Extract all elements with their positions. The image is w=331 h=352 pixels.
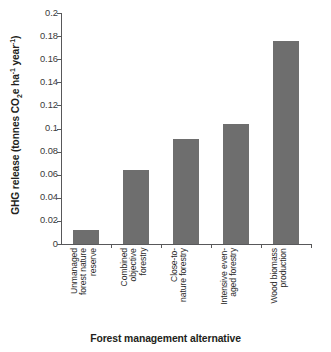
y-axis-tick-label: 0.2 [24, 9, 58, 18]
y-axis-line [61, 13, 62, 244]
y-axis-tick-label: 0 [24, 240, 58, 249]
y-axis-tick-mark [57, 152, 61, 153]
y-axis-tick-mark [57, 244, 61, 245]
y-axis-tick-label: 0.14 [24, 78, 58, 87]
y-axis-tick-mark [57, 221, 61, 222]
y-axis-tick-mark [57, 129, 61, 130]
y-axis-tick-mark [57, 13, 61, 14]
y-axis-tick-mark [57, 105, 61, 106]
y-axis-tick-mark [57, 36, 61, 37]
x-axis-category-labels: Unmanaged forest nature reserveCombined … [61, 248, 311, 330]
y-axis-tick-label: 0.08 [24, 147, 58, 156]
y-axis-tick-labels: 00.020.040.060.080.10.120.140.160.180.2 [14, 0, 58, 352]
y-axis-tick-mark [57, 59, 61, 60]
bar [273, 41, 299, 244]
y-axis-tick-mark [57, 82, 61, 83]
y-axis-tick-label: 0.1 [24, 124, 58, 133]
y-axis-tick-label: 0.06 [24, 170, 58, 179]
y-axis-tick-mark [57, 175, 61, 176]
bar [223, 124, 249, 244]
plot-area [61, 13, 311, 244]
y-axis-tick-label: 0.12 [24, 101, 58, 110]
y-axis-tick-mark [57, 198, 61, 199]
x-axis-category-label: Intensive even- aged forestry [220, 248, 239, 305]
bar [73, 230, 99, 244]
y-axis-tick-label: 0.18 [24, 32, 58, 41]
y-axis-tick-label: 0.02 [24, 216, 58, 225]
x-axis-title: Forest management alternative [0, 333, 331, 344]
x-axis-category-label: Combined objective forestry [120, 248, 148, 286]
y-axis-tick-label: 0.16 [24, 55, 58, 64]
x-axis-tick-mark [311, 244, 312, 248]
x-axis-line [61, 244, 311, 245]
bar [173, 139, 199, 244]
x-axis-category-label: Close-to- nature forestry [170, 248, 189, 302]
bar [123, 170, 149, 244]
bar-chart: GHG release (tonnes CO2e ha-1 year-1) 00… [0, 0, 331, 352]
x-axis-category-label: Wood biomass production [270, 248, 289, 303]
x-axis-category-label: Unmanaged forest nature reserve [70, 248, 98, 295]
y-axis-tick-label: 0.04 [24, 193, 58, 202]
